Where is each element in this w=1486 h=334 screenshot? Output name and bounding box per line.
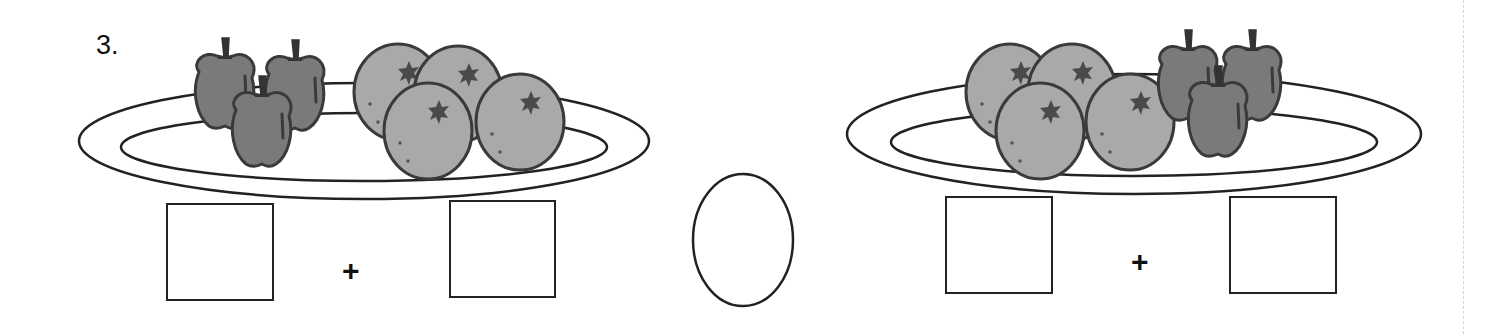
comparison-circle-input[interactable]: [693, 174, 793, 306]
left-answer-box-1[interactable]: [166, 203, 274, 301]
right-answer-box-2[interactable]: [1229, 196, 1337, 294]
left-answer-box-2[interactable]: [449, 200, 556, 298]
right-plus-sign: +: [1131, 247, 1149, 277]
left-plus-sign: +: [342, 256, 360, 286]
page-edge-dashed-line: [1463, 0, 1464, 334]
right-answer-box-1[interactable]: [945, 196, 1053, 294]
